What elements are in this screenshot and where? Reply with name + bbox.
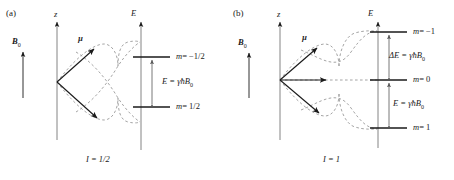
cone-upper-right-b [339, 31, 377, 66]
m-value: = −1/2 [182, 51, 205, 61]
energy-gap-label: E = γħB0 [162, 77, 193, 88]
energy-gap-subscript: 0 [421, 104, 424, 110]
b0-subscript: 0 [18, 42, 21, 48]
m-value: = 1 [419, 122, 430, 132]
mu-label: µ [302, 33, 307, 42]
panel-caption: I = 1/2 [86, 155, 110, 164]
energy-gap-label-delta: ΔE = γħB0 [389, 51, 425, 62]
energy-gap-expression: E = γħB [162, 76, 190, 86]
mu-vector-down [280, 80, 319, 113]
z-axis-label: z [54, 10, 57, 19]
panel-b: (b) z E B0 µ m= −1 m= 0 m= 1 ΔE = γħB0 E… [227, 0, 454, 180]
level-label-m-zero: m= 0 [413, 75, 430, 84]
b0-label: B0 [12, 37, 21, 48]
level-label-upper: m= −1/2 [176, 52, 205, 61]
z-axis-label: z [277, 10, 280, 19]
cone-upper-left [57, 44, 118, 82]
energy-gap-label-total: E = γħB0 [393, 99, 424, 110]
energy-gap-subscript: 0 [190, 82, 193, 88]
panel-tag: (a) [6, 9, 16, 18]
panel-tag: (b) [233, 9, 244, 18]
caption-value: = 1 [328, 154, 340, 164]
figure-root: (a) z E B0 µ m= −1/2 m= 1/2 E = γħB0 I =… [0, 0, 454, 180]
cone-lower-left [57, 82, 118, 120]
panel-caption: I = 1 [323, 155, 340, 164]
m-value: = 1/2 [182, 101, 200, 111]
level-label-m-minus-1: m= −1 [413, 27, 435, 36]
panel-a: (a) z E B0 µ m= −1/2 m= 1/2 E = γħB0 I =… [0, 0, 227, 180]
caption-symbol: I [323, 154, 326, 164]
energy-axis-label: E [131, 9, 136, 18]
mu-vector-up [280, 48, 317, 80]
energy-gap-expression: E = γħB [393, 98, 421, 108]
mu-vector-up [57, 49, 94, 82]
cone-lower-right-b [339, 94, 377, 129]
b0-subscript: 0 [244, 43, 247, 49]
m-value: = 0 [419, 74, 430, 84]
panel-a-graphics [0, 0, 227, 180]
level-label-m-plus-1: m= 1 [413, 123, 430, 132]
energy-axis-label: E [368, 9, 373, 18]
cone-cross-up [301, 31, 377, 62]
m-value: = −1 [419, 26, 435, 36]
caption-symbol: I [86, 154, 89, 164]
mu-label: µ [78, 34, 83, 43]
energy-gap-subscript: 0 [422, 56, 425, 62]
cone-cross-down [301, 98, 377, 129]
level-label-lower: m= 1/2 [176, 102, 200, 111]
mu-vector-down [57, 82, 97, 118]
b0-label: B0 [238, 38, 247, 49]
caption-value: = 1/2 [91, 154, 110, 164]
energy-gap-expression: ΔE = γħB [389, 50, 422, 60]
